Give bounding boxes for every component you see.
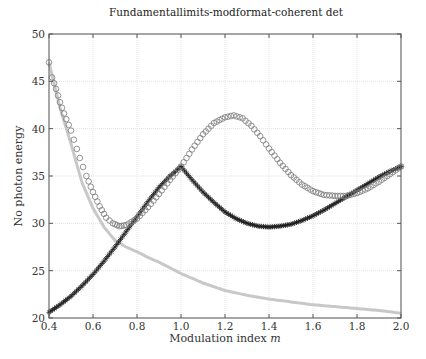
x-axis-label: Modulation index m	[169, 332, 281, 345]
chart: Fundamentallimits-modformat-coherent det…	[0, 0, 426, 359]
x-tick-label: 1.8	[349, 320, 366, 332]
axis-ticks: 0.40.60.81.01.21.41.61.82.02025303540455…	[32, 28, 410, 332]
x-tick-label: 0.6	[85, 320, 102, 332]
y-tick-label: 20	[32, 312, 45, 324]
y-tick-label: 40	[32, 123, 45, 135]
x-tick-label: 2.0	[393, 320, 410, 332]
x-tick-label: 0.8	[129, 320, 146, 332]
x-tick-label: 1.2	[217, 320, 234, 332]
y-tick-label: 25	[32, 265, 45, 277]
x-tick-label: 1.6	[305, 320, 322, 332]
y-axis-label: No photon energy	[12, 125, 25, 227]
y-tick-label: 45	[32, 75, 45, 87]
y-tick-label: 30	[32, 217, 45, 229]
chart-title: Fundamentallimits-modformat-coherent det	[109, 6, 344, 18]
y-tick-label: 50	[32, 28, 45, 40]
x-tick-label: 1.4	[261, 320, 278, 332]
x-tick-label: 1.0	[173, 320, 190, 332]
grid-lines	[49, 34, 401, 318]
y-tick-label: 35	[32, 170, 45, 182]
